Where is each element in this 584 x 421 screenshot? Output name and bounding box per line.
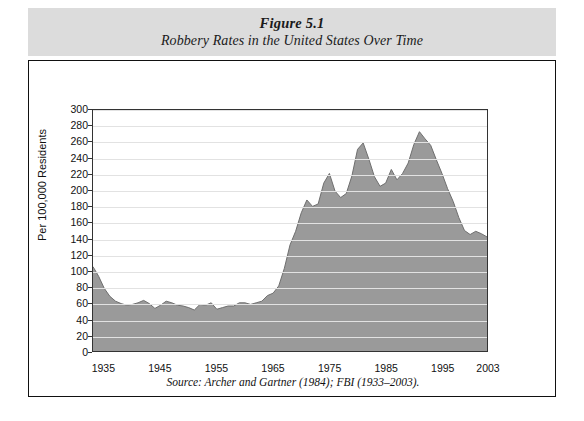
figure-title: Robbery Rates in the United States Over … xyxy=(161,32,423,50)
figure-box: Per 100,000 Residents 020406080100120140… xyxy=(28,60,556,397)
y-tick-label-260: 260 xyxy=(58,136,88,146)
gridline-60 xyxy=(93,304,487,305)
y-axis-label: Per 100,000 Residents xyxy=(36,110,48,260)
gridline-100 xyxy=(93,272,487,273)
y-tick-label-0: 0 xyxy=(58,347,88,357)
gridline-180 xyxy=(93,207,487,208)
gridline-260 xyxy=(93,142,487,143)
figure-number: Figure 5.1 xyxy=(260,15,325,32)
y-tick-label-180: 180 xyxy=(58,201,88,211)
area-fill-robbery-rate xyxy=(93,132,487,351)
gridline-20 xyxy=(93,337,487,338)
gridline-240 xyxy=(93,159,487,160)
chart-area: Per 100,000 Residents 020406080100120140… xyxy=(29,61,557,361)
y-tick-label-140: 140 xyxy=(58,234,88,244)
gridline-300 xyxy=(93,110,487,111)
figure-container: Figure 5.1 Robbery Rates in the United S… xyxy=(28,8,556,397)
y-tick-label-20: 20 xyxy=(58,331,88,341)
gridline-200 xyxy=(93,191,487,192)
gridline-140 xyxy=(93,240,487,241)
source-text: Source: Archer and Gartner (1984); FBI (… xyxy=(167,376,420,388)
gridline-80 xyxy=(93,288,487,289)
gridline-220 xyxy=(93,175,487,176)
area-series-robbery-rate xyxy=(93,110,487,351)
gridline-40 xyxy=(93,321,487,322)
y-tick-mark-0 xyxy=(88,352,92,353)
gridline-280 xyxy=(93,126,487,127)
y-tick-label-100: 100 xyxy=(58,266,88,276)
y-tick-label-300: 300 xyxy=(58,104,88,114)
y-tick-label-40: 40 xyxy=(58,315,88,325)
gridline-160 xyxy=(93,223,487,224)
source-note: Source: Archer and Gartner (1984); FBI (… xyxy=(29,372,557,390)
plot-region xyxy=(92,109,488,352)
y-tick-label-80: 80 xyxy=(58,282,88,292)
y-tick-label-200: 200 xyxy=(58,185,88,195)
y-tick-label-120: 120 xyxy=(58,250,88,260)
y-tick-label-240: 240 xyxy=(58,153,88,163)
y-axis-tick-labels: 0204060801001201401601802002202402602803… xyxy=(54,61,88,361)
y-tick-label-60: 60 xyxy=(58,298,88,308)
y-tick-label-280: 280 xyxy=(58,120,88,130)
gridline-120 xyxy=(93,256,487,257)
y-tick-label-160: 160 xyxy=(58,217,88,227)
y-tick-label-220: 220 xyxy=(58,169,88,179)
figure-title-band: Figure 5.1 Robbery Rates in the United S… xyxy=(28,8,556,56)
